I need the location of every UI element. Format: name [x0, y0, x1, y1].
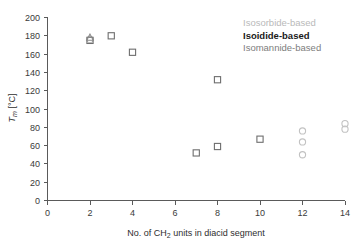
- y-axis-title: Tm [°C]: [7, 94, 18, 123]
- data-point-square: [129, 49, 135, 55]
- x-tick-group: 0 2 4 6 8 10 12 14: [45, 201, 350, 219]
- data-point-circle: [299, 152, 305, 158]
- y-tick-label: 200: [25, 13, 40, 23]
- y-tick-label: 100: [25, 105, 40, 115]
- y-tick-label: 160: [25, 50, 40, 60]
- x-tick-label: 2: [87, 208, 92, 218]
- data-point-circle: [299, 139, 305, 145]
- y-tick-group: 200 180 160 140 120 100 80 60 40 20 0: [25, 13, 48, 206]
- legend-entry-isoidide: Isoidide-based: [243, 30, 310, 41]
- x-tick-label: 12: [297, 208, 307, 218]
- y-tick-label: 120: [25, 86, 40, 96]
- x-tick-label: 14: [340, 208, 350, 218]
- scatter-chart-figure: 200 180 160 140 120 100 80 60 40 20 0 0 …: [0, 0, 358, 244]
- y-tick-label: 60: [30, 141, 40, 151]
- x-axis-title-pre: No. of CH: [127, 228, 167, 238]
- y-tick-label: 140: [25, 68, 40, 78]
- y-tick-label: 20: [30, 178, 40, 188]
- legend-entry-isosorbide: Isosorbide-based: [243, 17, 316, 28]
- data-point-square: [214, 143, 220, 149]
- svg-text:Tm [°C]: Tm [°C]: [7, 94, 18, 123]
- x-tick-label: 6: [172, 208, 177, 218]
- y-tick-label: 40: [30, 159, 40, 169]
- data-point-square: [193, 150, 199, 156]
- data-point-square: [257, 136, 263, 142]
- y-tick-label: 180: [25, 31, 40, 41]
- x-tick-label: 4: [130, 208, 135, 218]
- x-axis-title-post: units in diacid segment: [171, 228, 266, 238]
- y-axis-title-unit: [°C]: [7, 94, 17, 112]
- y-tick-label: 80: [30, 123, 40, 133]
- legend: Isosorbide-based Isoidide-based Isomanni…: [243, 17, 321, 53]
- x-tick-label: 10: [255, 208, 265, 218]
- data-point-circle: [299, 128, 305, 134]
- x-tick-label: 0: [45, 208, 50, 218]
- data-point-square: [214, 77, 220, 83]
- data-point-square: [108, 33, 114, 39]
- y-tick-label: 0: [35, 196, 40, 206]
- x-tick-label: 8: [215, 208, 220, 218]
- x-axis-title: No. of CH2 units in diacid segment: [127, 228, 265, 239]
- legend-entry-isomannide: Isomannide-based: [243, 42, 321, 53]
